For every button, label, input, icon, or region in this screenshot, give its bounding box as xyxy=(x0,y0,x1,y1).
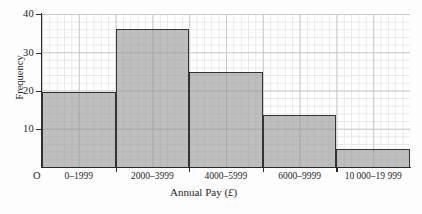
x-tick-label-1: 2000–3999 xyxy=(116,171,190,181)
y-tick-label-40: 40 xyxy=(0,8,34,19)
y-axis-title: Frequency xyxy=(14,33,25,123)
y-tick-40 xyxy=(36,14,42,15)
bar-0-1999 xyxy=(42,92,116,169)
bar-2000-3999 xyxy=(116,29,190,168)
x-axis-title-suffix: ) xyxy=(234,186,238,198)
bar-4000-5999 xyxy=(189,72,263,168)
x-axis-line xyxy=(41,167,411,168)
bar-10000-19999 xyxy=(336,149,410,168)
x-axis-title-prefix: Annual Pay ( xyxy=(170,186,228,198)
x-tick-label-4: 10 000–19 999 xyxy=(332,171,414,181)
histogram-figure: 10 20 30 40 0–1999 2000–3999 4000–5999 6… xyxy=(0,0,422,214)
y-tick-20 xyxy=(36,91,42,92)
y-tick-30 xyxy=(36,53,42,54)
x-tick-label-3: 6000–9999 xyxy=(263,171,337,181)
x-tick-label-2: 4000–5999 xyxy=(189,171,263,181)
x-axis-title: Annual Pay (£) xyxy=(170,186,237,198)
y-tick-label-10: 10 xyxy=(0,123,34,134)
y-tick-10 xyxy=(36,129,42,130)
origin-label: O xyxy=(33,170,41,181)
bar-6000-9999 xyxy=(263,115,337,169)
x-tick-label-0: 0–1999 xyxy=(42,171,116,181)
